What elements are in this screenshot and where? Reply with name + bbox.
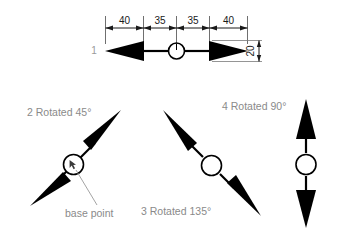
figure-4-rotation-label: 4 Rotated 90° [222,100,286,112]
dimension-value-35-right: 35 [187,15,199,26]
base-point-leader-line [76,170,97,205]
dim-tick-20-down [257,55,261,62]
figure-3-base-point-circle[interactable] [202,156,222,176]
shaft-upper-left [192,146,203,157]
dimension-value-40-right: 40 [223,15,235,26]
figure-3-arrowhead-lower-right [227,175,261,216]
figure-3-arrowhead-upper-left [163,110,197,151]
dim-tick-b-right [144,26,152,31]
dimension-value-35-left: 35 [154,15,166,26]
diagram-canvas: 40 35 35 40 1 20 [0,0,338,249]
dim-tick-e-left [240,26,248,31]
figure-4-rotated-90: 4 Rotated 90° [222,99,316,228]
dim-tick-20-up [257,41,261,48]
dimension-value-40-left: 40 [119,15,131,26]
dim-tick-a-right [106,26,114,31]
dim-tick-c-right [177,26,185,31]
figure-1-id-label: 1 [91,45,97,56]
figure-2-rotation-label: 2 Rotated 45° [27,106,91,118]
figure-3-rotated-135: 3 Rotated 135° [141,110,261,217]
figure-1-arrowhead-left [105,41,144,61]
figure-1-arrowhead-right [209,41,248,61]
figure-4-arrowhead-down [296,190,316,228]
base-point-callout-label: base point [65,207,114,219]
dim-tick-d-right [210,26,218,31]
figure-2-arrowhead-lower-left [30,172,71,206]
dimension-value-20: 20 [245,45,256,57]
technical-drawing-svg: 40 35 35 40 1 20 [0,0,338,249]
dim-tick-c-left [169,26,177,31]
figure-4-arrowhead-up [296,99,316,139]
dim-tick-d-left [202,26,210,31]
dim-tick-b-left [136,26,144,31]
figure-2-rotated-45: 2 Rotated 45° base point [27,106,121,219]
figure-3-rotation-label: 3 Rotated 135° [141,205,211,217]
figure-1-horizontal-arrow: 40 35 35 40 1 20 [91,15,262,62]
figure-4-base-point-circle[interactable] [296,155,316,175]
